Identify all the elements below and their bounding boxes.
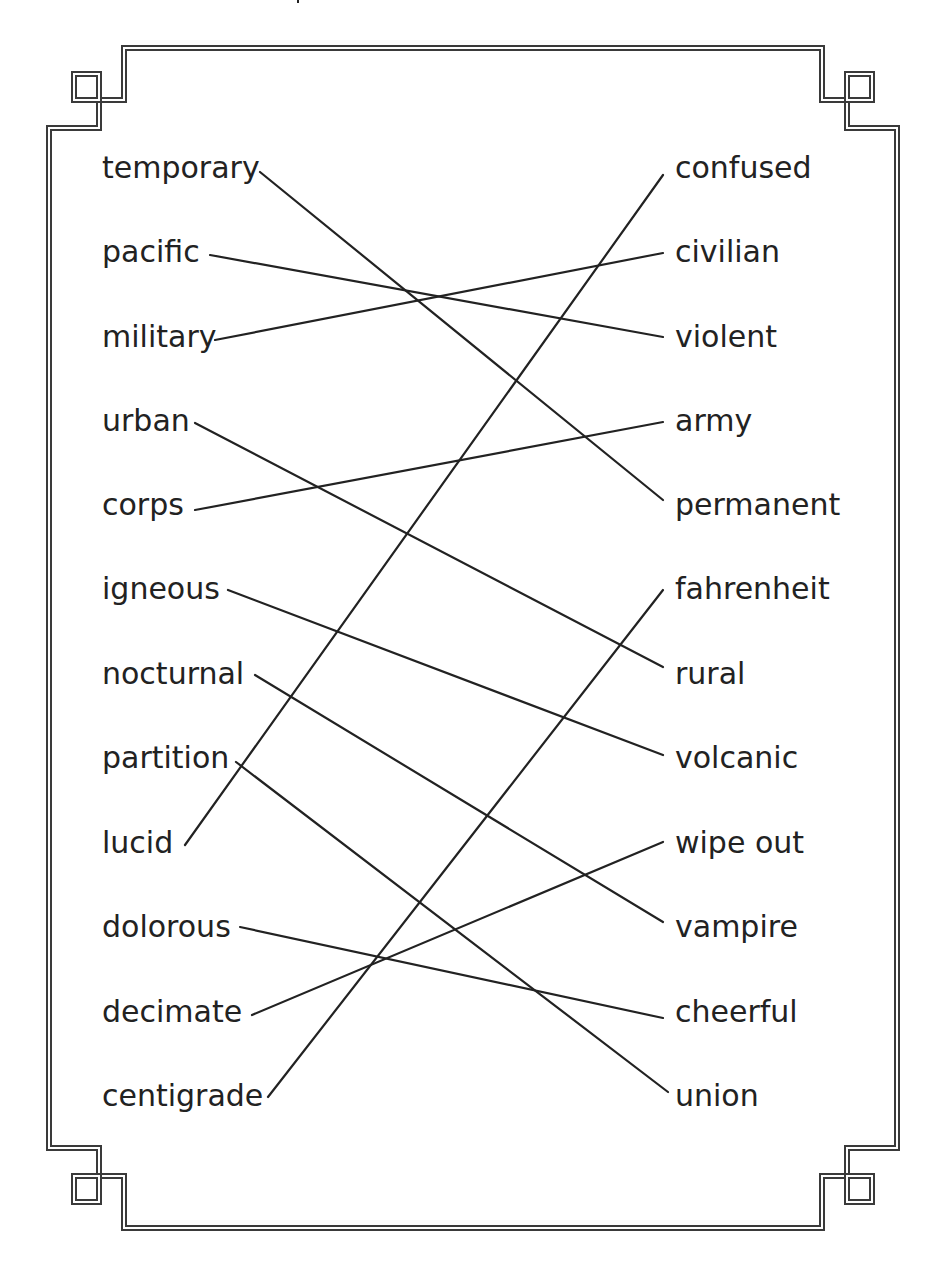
corner-square-bl	[74, 1176, 99, 1202]
right-word: rural	[675, 656, 745, 691]
right-word-column: confused civilian violent army permanent…	[675, 150, 840, 1113]
right-word: volcanic	[675, 740, 798, 775]
line-dolorous-cheerful	[240, 927, 663, 1018]
left-word: dolorous	[102, 909, 231, 944]
right-word: army	[675, 403, 752, 438]
left-word: centigrade	[102, 1078, 263, 1113]
left-word: urban	[102, 403, 190, 438]
right-word: wipe out	[675, 825, 804, 860]
right-word: confused	[675, 150, 812, 185]
line-nocturnal-vampire	[255, 675, 663, 922]
corner-square-tr	[847, 74, 872, 100]
right-word: permanent	[675, 487, 840, 522]
left-word: corps	[102, 487, 184, 522]
left-word: military	[102, 319, 216, 354]
match-lines	[185, 172, 668, 1097]
worksheet-page: temporary pacific military urban corps i…	[0, 0, 945, 1261]
left-word: pacific	[102, 234, 200, 269]
left-word-column: temporary pacific military urban corps i…	[102, 150, 263, 1113]
line-decimate-wipe-out	[252, 842, 663, 1015]
line-temporary-permanent	[260, 172, 663, 500]
right-word: violent	[675, 319, 777, 354]
decorative-frame	[49, 48, 897, 1228]
right-word: union	[675, 1078, 759, 1113]
left-word: temporary	[102, 150, 260, 185]
line-lucid-confused	[185, 175, 663, 845]
corner-square-tl	[74, 74, 99, 100]
left-word: nocturnal	[102, 656, 244, 691]
right-word: cheerful	[675, 994, 798, 1029]
left-word: igneous	[102, 571, 220, 606]
line-urban-rural	[195, 423, 663, 667]
line-military-civilian	[215, 253, 663, 340]
worksheet-canvas: temporary pacific military urban corps i…	[0, 0, 945, 1261]
corner-square-br	[847, 1176, 872, 1202]
line-partition-union	[236, 762, 668, 1092]
line-centigrade-fahrenheit	[268, 590, 663, 1097]
line-corps-army	[195, 422, 663, 510]
left-word: decimate	[102, 994, 242, 1029]
right-word: vampire	[675, 909, 798, 944]
right-word: civilian	[675, 234, 780, 269]
left-word: lucid	[102, 825, 173, 860]
right-word: fahrenheit	[675, 571, 830, 606]
left-word: partition	[102, 740, 229, 775]
